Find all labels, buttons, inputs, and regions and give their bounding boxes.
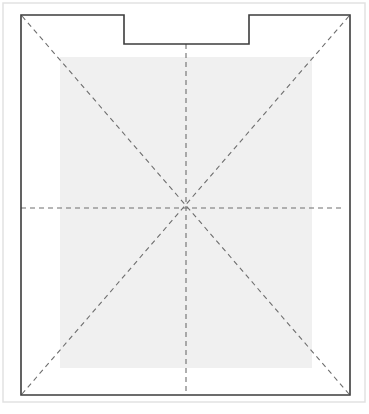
shaded-inner-region (60, 57, 312, 368)
drawing-canvas (0, 0, 369, 414)
technical-drawing-figure (0, 0, 369, 414)
